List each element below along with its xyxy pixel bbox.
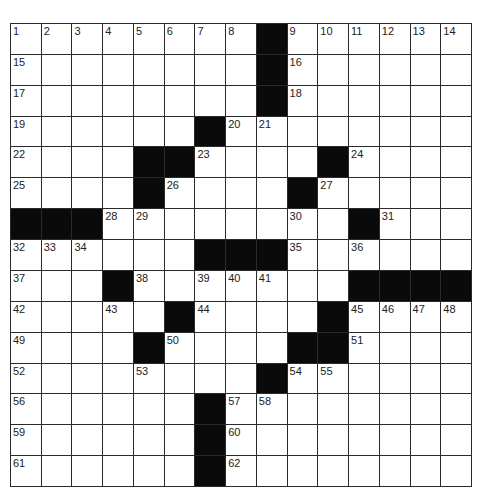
grid-cell[interactable] [349,55,379,85]
grid-cell[interactable] [103,333,133,363]
grid-cell[interactable] [318,86,348,116]
grid-cell[interactable] [134,55,164,85]
grid-cell[interactable]: 36 [349,240,379,270]
grid-cell[interactable] [165,456,195,486]
grid-cell[interactable]: 40 [226,271,256,301]
grid-cell[interactable] [411,394,441,424]
grid-cell[interactable]: 9 [288,24,318,54]
grid-cell[interactable]: 43 [103,302,133,332]
grid-cell[interactable] [349,86,379,116]
grid-cell[interactable]: 58 [257,394,287,424]
grid-cell[interactable] [441,209,471,239]
grid-cell[interactable]: 8 [226,24,256,54]
grid-cell[interactable] [42,364,72,394]
grid-cell[interactable] [195,86,225,116]
grid-cell[interactable]: 24 [349,147,379,177]
grid-cell[interactable] [72,178,102,208]
grid-cell[interactable] [226,147,256,177]
grid-cell[interactable] [72,364,102,394]
grid-cell[interactable]: 61 [11,456,41,486]
grid-cell[interactable] [441,117,471,147]
grid-cell[interactable] [72,333,102,363]
grid-cell[interactable]: 55 [318,364,348,394]
grid-cell[interactable] [72,456,102,486]
grid-cell[interactable]: 25 [11,178,41,208]
grid-cell[interactable]: 30 [288,209,318,239]
grid-cell[interactable]: 31 [380,209,410,239]
grid-cell[interactable] [134,240,164,270]
grid-cell[interactable] [441,147,471,177]
grid-cell[interactable] [72,271,102,301]
grid-cell[interactable] [42,147,72,177]
grid-cell[interactable] [226,209,256,239]
grid-cell[interactable] [103,147,133,177]
grid-cell[interactable]: 12 [380,24,410,54]
grid-cell[interactable]: 34 [72,240,102,270]
grid-cell[interactable] [349,117,379,147]
grid-cell[interactable]: 62 [226,456,256,486]
grid-cell[interactable] [441,456,471,486]
grid-cell[interactable]: 39 [195,271,225,301]
grid-cell[interactable] [257,302,287,332]
grid-cell[interactable] [226,302,256,332]
grid-cell[interactable] [103,425,133,455]
grid-cell[interactable] [288,302,318,332]
grid-cell[interactable] [42,302,72,332]
grid-cell[interactable] [195,55,225,85]
grid-cell[interactable] [380,333,410,363]
grid-cell[interactable] [72,302,102,332]
grid-cell[interactable] [441,178,471,208]
grid-cell[interactable] [380,394,410,424]
grid-cell[interactable] [42,55,72,85]
grid-cell[interactable] [318,117,348,147]
grid-cell[interactable] [103,178,133,208]
grid-cell[interactable] [318,456,348,486]
grid-cell[interactable] [42,178,72,208]
grid-cell[interactable] [349,364,379,394]
grid-cell[interactable]: 47 [411,302,441,332]
grid-cell[interactable] [288,147,318,177]
grid-cell[interactable] [318,55,348,85]
grid-cell[interactable] [441,240,471,270]
grid-cell[interactable]: 29 [134,209,164,239]
grid-cell[interactable] [257,456,287,486]
grid-cell[interactable]: 13 [411,24,441,54]
grid-cell[interactable]: 5 [134,24,164,54]
grid-cell[interactable] [288,117,318,147]
grid-cell[interactable] [42,86,72,116]
grid-cell[interactable]: 2 [42,24,72,54]
grid-cell[interactable]: 60 [226,425,256,455]
grid-cell[interactable]: 27 [318,178,348,208]
grid-cell[interactable] [318,271,348,301]
grid-cell[interactable]: 37 [11,271,41,301]
grid-cell[interactable] [134,394,164,424]
grid-cell[interactable] [134,117,164,147]
grid-cell[interactable] [288,394,318,424]
grid-cell[interactable]: 32 [11,240,41,270]
grid-cell[interactable] [257,147,287,177]
grid-cell[interactable] [441,394,471,424]
grid-cell[interactable] [257,333,287,363]
grid-cell[interactable] [103,86,133,116]
grid-cell[interactable] [411,117,441,147]
grid-cell[interactable]: 6 [165,24,195,54]
grid-cell[interactable] [103,55,133,85]
grid-cell[interactable]: 35 [288,240,318,270]
grid-cell[interactable] [195,364,225,394]
grid-cell[interactable] [72,147,102,177]
grid-cell[interactable]: 10 [318,24,348,54]
grid-cell[interactable] [318,425,348,455]
grid-cell[interactable]: 53 [134,364,164,394]
grid-cell[interactable]: 26 [165,178,195,208]
grid-cell[interactable]: 1 [11,24,41,54]
grid-cell[interactable] [42,425,72,455]
grid-cell[interactable]: 48 [441,302,471,332]
grid-cell[interactable]: 49 [11,333,41,363]
grid-cell[interactable]: 51 [349,333,379,363]
grid-cell[interactable] [380,55,410,85]
grid-cell[interactable]: 44 [195,302,225,332]
grid-cell[interactable] [380,178,410,208]
grid-cell[interactable]: 17 [11,86,41,116]
grid-cell[interactable] [441,55,471,85]
grid-cell[interactable] [42,394,72,424]
